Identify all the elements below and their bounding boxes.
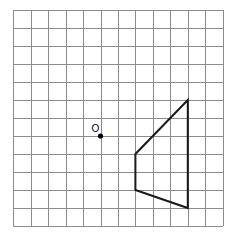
- point-o-label: O: [92, 123, 100, 134]
- grid-diagram: O: [0, 0, 236, 235]
- point-o: [98, 133, 103, 138]
- grid-lines: [13, 10, 223, 227]
